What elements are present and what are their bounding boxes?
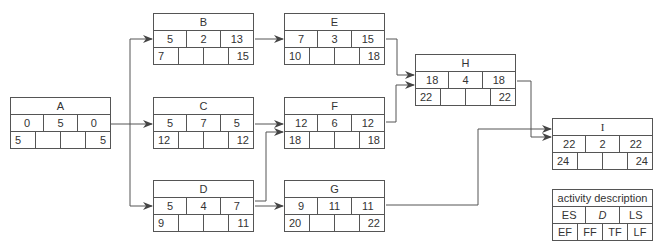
- total-float: [203, 215, 228, 231]
- duration: 11: [317, 198, 350, 214]
- legend-key: activity description ES D LS EF FF TF LF: [552, 189, 653, 241]
- early-finish: 9: [154, 215, 178, 231]
- total-float: [60, 132, 85, 148]
- late-start: 22: [619, 136, 652, 152]
- early-finish: 22: [416, 89, 440, 105]
- free-float: [309, 132, 334, 148]
- total-float: [334, 132, 359, 148]
- legend-ef: EF: [553, 224, 577, 240]
- node-e: E 7 3 15 10 18: [284, 13, 385, 65]
- free-float: [440, 89, 465, 105]
- edge-d-f: [255, 132, 283, 201]
- node-i: I 22 2 22 24 24: [552, 118, 653, 170]
- free-float: [178, 215, 203, 231]
- duration: 6: [317, 115, 350, 131]
- late-finish: 12: [228, 132, 253, 148]
- late-finish: 22: [359, 215, 384, 231]
- late-finish: 22: [490, 89, 515, 105]
- early-start: 22: [553, 136, 585, 152]
- late-finish: 18: [359, 132, 384, 148]
- node-h: H 18 4 18 22 22: [415, 54, 516, 106]
- edge-f-h: [386, 85, 414, 122]
- free-float: [178, 132, 203, 148]
- node-f: F 12 6 12 18 18: [284, 97, 385, 149]
- legend-duration: D: [585, 207, 618, 223]
- early-start: 5: [154, 198, 186, 214]
- duration: 7: [186, 115, 219, 131]
- duration: 5: [43, 115, 76, 131]
- early-start: 0: [11, 115, 43, 131]
- early-finish: 18: [285, 132, 309, 148]
- early-finish: 5: [11, 132, 35, 148]
- edge-g-i: [386, 129, 551, 205]
- late-start: 13: [220, 31, 253, 47]
- late-start: 0: [77, 115, 110, 131]
- legend-lf: LF: [627, 224, 652, 240]
- node-title: B: [154, 14, 253, 31]
- early-start: 5: [154, 115, 186, 131]
- late-finish: 11: [228, 215, 253, 231]
- legend-ff: FF: [577, 224, 602, 240]
- duration: 2: [585, 136, 618, 152]
- total-float: [602, 153, 627, 169]
- early-start: 12: [285, 115, 317, 131]
- node-title: G: [285, 181, 384, 198]
- late-finish: 5: [85, 132, 110, 148]
- late-finish: 18: [359, 48, 384, 64]
- early-finish: 10: [285, 48, 309, 64]
- duration: 4: [186, 198, 219, 214]
- edge-e-h: [386, 39, 414, 75]
- node-title: A: [11, 98, 110, 115]
- total-float: [465, 89, 490, 105]
- total-float: [334, 215, 359, 231]
- node-title: C: [154, 98, 253, 115]
- late-finish: 24: [627, 153, 652, 169]
- node-g: G 9 11 11 20 22: [284, 180, 385, 232]
- early-start: 9: [285, 198, 317, 214]
- node-title: E: [285, 14, 384, 31]
- late-start: 5: [220, 115, 253, 131]
- total-float: [203, 48, 228, 64]
- node-title: D: [154, 181, 253, 198]
- early-finish: 24: [553, 153, 577, 169]
- late-start: 11: [351, 198, 384, 214]
- late-finish: 15: [228, 48, 253, 64]
- early-start: 5: [154, 31, 186, 47]
- duration: 3: [317, 31, 350, 47]
- late-start: 18: [482, 72, 515, 88]
- free-float: [309, 215, 334, 231]
- legend-ls: LS: [619, 207, 652, 223]
- free-float: [577, 153, 602, 169]
- node-title: F: [285, 98, 384, 115]
- late-start: 15: [351, 31, 384, 47]
- duration: 2: [186, 31, 219, 47]
- early-start: 7: [285, 31, 317, 47]
- node-d: D 5 4 7 9 11: [153, 180, 254, 232]
- node-title: I: [553, 119, 652, 136]
- total-float: [334, 48, 359, 64]
- late-start: 12: [351, 115, 384, 131]
- early-finish: 7: [154, 48, 178, 64]
- late-start: 7: [220, 198, 253, 214]
- duration: 4: [448, 72, 481, 88]
- legend-es: ES: [553, 207, 585, 223]
- early-finish: 20: [285, 215, 309, 231]
- free-float: [178, 48, 203, 64]
- free-float: [35, 132, 60, 148]
- node-b: B 5 2 13 7 15: [153, 13, 254, 65]
- early-start: 18: [416, 72, 448, 88]
- free-float: [309, 48, 334, 64]
- legend-title: activity description: [553, 190, 652, 207]
- node-a: A 0 5 0 5 5: [10, 97, 111, 149]
- legend-tf: TF: [602, 224, 627, 240]
- total-float: [203, 132, 228, 148]
- early-finish: 12: [154, 132, 178, 148]
- node-c: C 5 7 5 12 12: [153, 97, 254, 149]
- node-title: H: [416, 55, 515, 72]
